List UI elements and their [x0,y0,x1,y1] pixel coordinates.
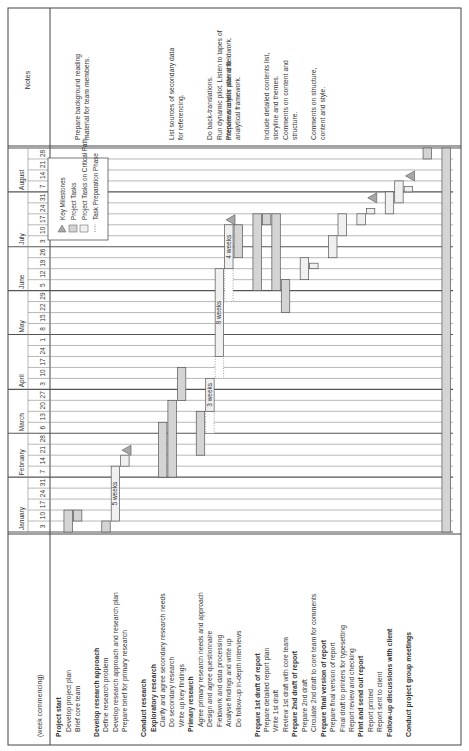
task-group-label: Follow-up discussions with client [386,628,394,737]
task-group-label: Prepare final version of report [320,639,328,737]
week-tick-label: 17 [39,215,46,223]
task-group-label: Primary research [187,676,195,732]
task-bar [442,148,450,532]
task-label: Develop project plan [65,670,73,732]
task-label: Do secondary research [168,657,176,727]
task-label: Define research problem [102,657,110,732]
week-tick-label: 28 [39,435,46,443]
week-tick-label: 26 [39,248,46,256]
week-tick-label: 7 [39,469,46,473]
month-label: January [18,506,26,530]
week-tick-label: 12 [39,270,46,278]
task-label: Prepare detailed report plan [263,648,271,732]
task-label: Design and agree questionnaire [206,630,214,727]
duration-label: 3 weeks [206,382,213,407]
task-label: Write 1st draft [272,690,279,732]
task-bar-icon [69,225,77,232]
week-tick-label: 24 [39,347,46,355]
week-tick-label: 21 [39,446,46,454]
week-tick-label: 10 [39,369,46,377]
note-text: Run dynamic pilot. Listen to tapes of [216,30,224,140]
task-group-label: Project start [55,697,63,737]
task-bar [234,225,242,258]
legend-label: Project Tasks [70,183,78,220]
task-group-label: Develop research approach [93,648,101,737]
task-label: Clarify and agree secondary research nee… [159,593,167,727]
task-bar [281,280,289,313]
week-tick-label: 15 [39,314,46,322]
week-commencing-label: (week commencing) [36,674,44,737]
week-tick-label: 14 [39,171,46,179]
note-text: Prepare analysis plan and [225,61,233,140]
month-label: April [18,374,26,388]
week-tick-label: 1 [39,338,46,342]
critical-task-bar [329,236,337,258]
task-label: Circulate 2nd draft to core team for com… [310,593,317,732]
legend-label: Key Milestones [59,177,67,220]
critical-task-bar [366,208,374,213]
task-label: Develop research approach and research p… [112,592,120,732]
week-tick-label: 6 [39,426,46,430]
week-tick-label: 10 [39,512,46,520]
note-text: Comments on structure, [310,67,317,140]
week-tick-label: 17 [39,501,46,509]
task-label: Report sent to client [376,671,384,732]
note-text: for referencing. [177,94,185,140]
week-tick-label: 13 [39,413,46,421]
note-text: structure. [291,112,298,140]
week-tick-label: 3 [39,524,46,528]
critical-task-bar [357,214,365,225]
week-tick-label: 21 [39,160,46,168]
month-label: August [18,169,26,189]
critical-task-bar [121,455,129,466]
legend-label: Project Tasks on Critical Path [81,138,89,220]
task-group-label: Conduct project group meetings [405,632,413,737]
note-text: Prepare background reading [74,54,82,140]
critical-task-bar [385,192,393,214]
critical-task-bar [338,214,346,236]
month-label: May [18,319,26,332]
week-tick-label: 24 [39,490,46,498]
note-text: analytical framework. [234,76,242,140]
task-label: Write up key findings [178,663,186,727]
week-tick-label: 8 [39,327,46,331]
week-tick-label: 3 [39,382,46,386]
gantt-chart: (week commencing)NotesJanuary310172431Fe… [0,0,469,751]
task-group-label: Prepare 1st draft of report [254,652,262,737]
month-label: July [18,232,26,244]
task-label: Report review and checking [348,648,356,732]
week-tick-label: 10 [39,226,46,234]
preparation-phase-bar [225,269,233,302]
note-text: Comments on content and [282,60,289,140]
task-bar [253,214,261,291]
task-label: Prepare 2nd draft [301,679,309,732]
critical-task-bar [300,258,308,280]
task-bar [158,422,166,477]
duration-label: 8 weeks [215,300,222,325]
task-group-label: Conduct research [140,679,147,737]
task-group-label: Prepare 2nd draft of report [291,650,299,737]
note-text: List sources of secondary data [168,48,176,140]
note-text: material for team members. [83,57,90,140]
week-tick-label: 24 [39,204,46,212]
week-tick-label: 7 [39,184,46,188]
month-label: February [18,448,26,475]
task-bar [196,411,204,455]
critical-task-bar [404,186,412,191]
week-tick-label: 17 [39,358,46,366]
task-group-label: Exploratory research [150,664,158,732]
week-tick-label: 3 [39,239,46,243]
task-label: Analyse findings and write up [225,638,233,727]
week-tick-label: 22 [39,303,46,311]
week-tick-label: 20 [39,402,46,410]
task-bar [64,510,72,532]
week-tick-label: 14 [39,457,46,465]
critical-task-bar [395,181,403,203]
week-tick-label: 28 [39,149,46,157]
task-group-label: Print and send out report [357,655,365,737]
month-label: June [18,274,25,288]
preparation-phase-bar [215,356,223,378]
task-bar [423,148,431,159]
note-text: Do back-translations. [206,76,213,140]
week-tick-label: 19 [39,259,46,267]
